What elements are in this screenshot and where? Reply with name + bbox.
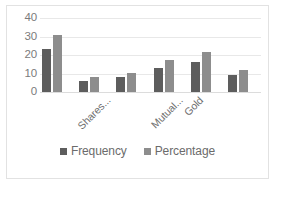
bar-frequency [154, 68, 163, 92]
legend-swatch-icon [144, 148, 151, 155]
chart-legend: FrequencyPercentage [7, 145, 268, 157]
legend-item[interactable]: Frequency [60, 145, 127, 157]
y-axis: 403020100 [11, 18, 37, 92]
x-axis-tick-label: Mutual... [149, 94, 185, 130]
bar-group [226, 18, 263, 92]
bar-frequency [42, 49, 51, 92]
bar-frequency [79, 81, 88, 92]
legend-swatch-icon [60, 148, 67, 155]
y-axis-tick-label: 30 [11, 31, 37, 43]
y-axis-tick-label: 40 [11, 12, 37, 24]
y-axis-tick-label: 0 [11, 86, 37, 98]
gridline [40, 92, 261, 93]
bar-frequency [191, 62, 200, 92]
legend-label: Percentage [155, 145, 215, 157]
x-axis-labels: Shares...Mutual...Gold [40, 94, 261, 138]
bar-percentage [239, 70, 248, 92]
bar-percentage [53, 35, 62, 92]
bar-group [40, 18, 77, 92]
bar-group [152, 18, 189, 92]
bar-percentage [127, 73, 136, 92]
y-axis-tick-label: 20 [11, 49, 37, 61]
bar-frequency [116, 77, 125, 92]
legend-item[interactable]: Percentage [144, 145, 215, 157]
bar-group [114, 18, 151, 92]
y-axis-tick-label: 10 [11, 68, 37, 80]
bar-frequency [228, 75, 237, 92]
x-axis-tick-label: Gold [181, 94, 205, 118]
x-axis-tick-label: Shares... [75, 94, 113, 132]
bar-group [189, 18, 226, 92]
legend-label: Frequency [71, 145, 127, 157]
chart-container: 403020100 Shares...Mutual...Gold Frequen… [6, 5, 269, 179]
bar-percentage [202, 52, 211, 92]
bar-percentage [165, 60, 174, 92]
bar-series-area [40, 18, 261, 92]
bar-percentage [90, 77, 99, 92]
bar-group [77, 18, 114, 92]
